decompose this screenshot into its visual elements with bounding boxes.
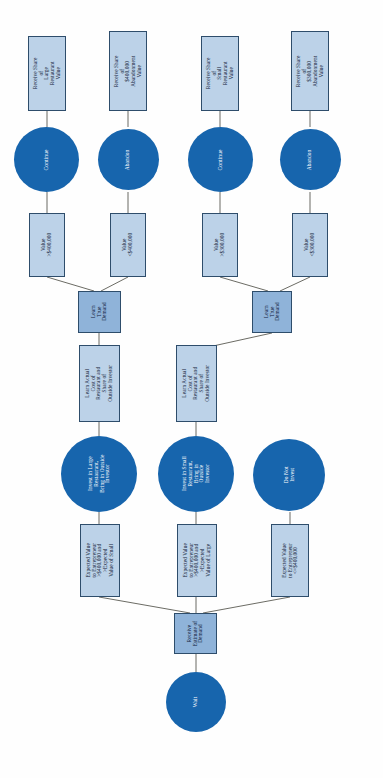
node-wait[interactable]: Wait (166, 672, 226, 732)
node-label: Continue (218, 149, 224, 170)
node-label: Receive Share of $400,000 Abandonment Va… (114, 53, 143, 89)
node-label: Learn True Demand (263, 303, 280, 322)
node-label: Value <$400,000 (122, 233, 133, 257)
node-label: Wait (193, 697, 199, 708)
node-label: Abandon (308, 149, 314, 170)
node-label: Invest in Large Restaurant, Bring in Out… (87, 455, 110, 493)
node-learn-true-demand-right[interactable]: Learn True Demand (252, 291, 292, 333)
node-learn-actual-cost-left[interactable]: Learn Actual Cost of Restaurant and Shar… (79, 345, 120, 422)
node-label: Receive Share of Small Restaurant Value (206, 56, 235, 92)
edge-n9-n13 (47, 277, 94, 291)
node-label: Receive Estimate of Demand (187, 621, 204, 646)
node-label: Value >$300,000 (214, 233, 225, 257)
node-value-below-400000[interactable]: Value <$400,000 (110, 213, 146, 277)
node-label: Learn True Demand (91, 303, 108, 322)
node-abandon-300000[interactable]: Abandon (280, 129, 341, 190)
node-invest-small-restaurant[interactable]: Invest in Small Restaurant, Bring in Out… (158, 436, 234, 512)
node-receive-share-large-restaurant-value[interactable]: Receive Share of Large Restaurant Value (28, 36, 66, 111)
node-value-below-300000[interactable]: Value <$300,000 (292, 213, 328, 277)
node-label: Abandon (126, 149, 132, 170)
node-label: Learn Actual Cost of Restaurant and Shar… (182, 365, 211, 402)
edge-n10-n13 (101, 277, 128, 291)
node-label: Expected Value to Entrepreneur >$400,000… (86, 543, 115, 578)
node-label: Learn Actual Cost of Restaurant and Shar… (85, 365, 114, 402)
node-label: Value <$300,000 (304, 233, 315, 257)
node-do-not-invest[interactable]: Do Not Invest (253, 439, 325, 511)
node-label: Do Not Invest (283, 467, 295, 484)
node-label: Invest in Small Restaurant, Bring in Out… (181, 457, 210, 492)
node-label: Receive Share of Large Restaurant Value (33, 56, 62, 92)
node-label: Expected Value to Entrepreneur <=$400,00… (281, 543, 298, 578)
node-label: Expected Value to Entrepreneur >$400,000… (183, 543, 212, 578)
node-learn-true-demand-left[interactable]: Learn True Demand (78, 291, 121, 333)
node-receive-estimate-of-demand[interactable]: Receive Estimate of Demand (174, 613, 217, 654)
node-continue-large[interactable]: Continue (14, 127, 79, 192)
edge-n20-n23 (99, 597, 190, 613)
edge-n22-n23 (203, 597, 290, 613)
node-invest-large-restaurant[interactable]: Invest in Large Restaurant, Bring in Out… (61, 436, 137, 512)
node-continue-small[interactable]: Continue (188, 127, 253, 192)
node-label: Continue (44, 149, 50, 170)
node-receive-share-300000-abandonment-value[interactable]: Receive Share of $300,000 Abandonment Va… (291, 31, 329, 111)
node-receive-share-small-restaurant-value[interactable]: Receive Share of Small Restaurant Value (201, 36, 239, 111)
node-value-above-400000[interactable]: Value >$400,000 (29, 213, 65, 277)
node-learn-actual-cost-right[interactable]: Learn Actual Cost of Restaurant and Shar… (176, 345, 217, 422)
edge-n11-n14 (220, 277, 268, 291)
node-label: Receive Share of $300,000 Abandonment Va… (296, 53, 325, 89)
node-abandon-400000[interactable]: Abandon (98, 129, 159, 190)
node-expected-value-large[interactable]: Expected Value to Entrepreneur >$400,000… (80, 524, 120, 597)
decision-tree-diagram: Receive Share of Large Restaurant Value … (0, 0, 383, 778)
node-label: Value >$400,000 (41, 233, 52, 257)
node-expected-value-small[interactable]: Expected Value to Entrepreneur >$400,000… (177, 524, 217, 597)
node-value-above-300000[interactable]: Value >$300,000 (202, 213, 238, 277)
node-receive-share-400000-abandonment-value[interactable]: Receive Share of $400,000 Abandonment Va… (109, 31, 147, 111)
edge-n12-n14 (280, 277, 310, 291)
node-expected-value-below-400000[interactable]: Expected Value to Entrepreneur <=$400,00… (271, 524, 309, 597)
